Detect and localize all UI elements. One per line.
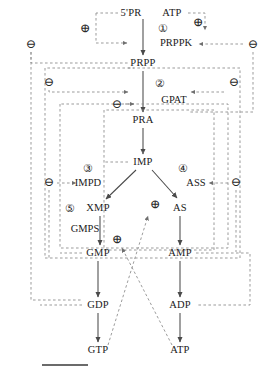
enzyme-number-2-icon: ② (155, 78, 165, 89)
enzyme-number-4-icon: ④ (178, 163, 188, 174)
inhibition-minus-right-2-icon: ⊖ (229, 76, 239, 89)
node-gtp: GTP (88, 345, 108, 356)
node-imp: IMP (133, 157, 152, 168)
node-5pr: 5'PR (121, 8, 142, 19)
enzyme-ass: ASS (186, 178, 205, 189)
activation-plus-prppk-icon: ⊕ (193, 16, 203, 29)
activation-plus-prpp-icon: ⊕ (80, 22, 90, 35)
inhibition-minus-impd-icon: ⊖ (44, 176, 54, 189)
arrow-imp-to-xmp (106, 170, 136, 199)
enzyme-prppk: PRPPK (160, 38, 192, 49)
reg-atp-to-gmp-plus (122, 248, 172, 345)
inhibition-minus-ass-icon: ⊖ (231, 176, 241, 189)
arrow-imp-to-as (152, 170, 177, 198)
activation-plus-as-icon: ⊕ (150, 198, 160, 211)
node-adp: ADP (169, 300, 191, 311)
enzyme-gpat: GPAT (161, 95, 186, 106)
enzyme-number-3-icon: ③ (83, 163, 93, 174)
node-gmp: GMP (86, 248, 109, 259)
reg-minus2-left-to-prpp (49, 90, 128, 92)
enzyme-impd: IMPD (75, 178, 101, 189)
reg-minus1-left-top (31, 52, 128, 63)
node-as: AS (173, 203, 187, 214)
enzyme-gmps: GMPS (71, 224, 100, 235)
pathway-diagram: 5'PR ATP PRPP PRA IMP XMP AS GMP AMP GDP… (0, 0, 279, 371)
node-xmp: XMP (86, 203, 109, 214)
activation-plus-gmp-icon: ⊕ (112, 233, 122, 246)
node-atp-bottom: ATP (170, 345, 189, 356)
node-atp-top: ATP (162, 8, 181, 19)
inhibition-minus-right-1-icon: ⊖ (248, 38, 258, 51)
inhibition-minus-left-2-icon: ⊖ (44, 76, 54, 89)
enzyme-number-1-icon: ① (158, 23, 168, 34)
reg-amp-feedback-right (196, 253, 250, 305)
node-gdp: GDP (87, 300, 109, 311)
node-prpp: PRPP (130, 58, 155, 69)
enzyme-number-5-icon: ⑤ (65, 203, 75, 214)
node-amp: AMP (168, 248, 191, 259)
inhibition-minus-pra-icon: ⊖ (112, 98, 122, 111)
node-pra: PRA (132, 115, 153, 126)
inhibition-minus-left-1-icon: ⊖ (26, 38, 36, 51)
reg-minus1-right-path (190, 52, 253, 112)
